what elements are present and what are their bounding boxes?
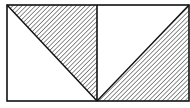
two-squares-hatched-triangles-diagram: [0, 0, 190, 108]
